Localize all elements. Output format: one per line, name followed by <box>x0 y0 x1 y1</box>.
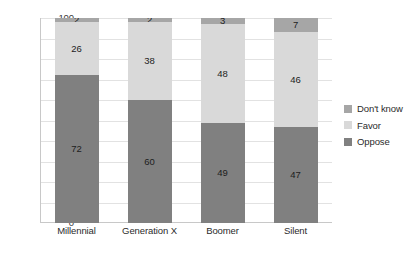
bar-segment-oppose[interactable]: 47 <box>274 127 318 223</box>
bar-value-label: 47 <box>290 170 300 180</box>
bar-segment-favor[interactable]: 46 <box>274 32 318 126</box>
category-label: Silent <box>259 226 332 236</box>
bar-column-millennial[interactable]: 22672 <box>55 18 99 223</box>
legend-item-favor[interactable]: Favor <box>344 121 403 131</box>
legend-swatch-icon <box>344 138 352 146</box>
legend-swatch-icon <box>344 105 352 113</box>
bar-value-label: 26 <box>71 44 81 54</box>
bar-value-label: 7 <box>293 20 298 30</box>
bar-segment-oppose[interactable]: 49 <box>201 123 245 223</box>
stacked-bar-chart: 1009080706050403020100 22672238603484974… <box>0 0 418 254</box>
y-axis-line <box>40 18 41 223</box>
bar-value-label: 60 <box>144 157 154 167</box>
legend-label: Favor <box>357 121 381 131</box>
bar-segment-don-t-know[interactable]: 7 <box>274 18 318 32</box>
bar-column-silent[interactable]: 74647 <box>274 18 318 223</box>
legend-label: Don't know <box>357 104 403 114</box>
bar-column-boomer[interactable]: 34849 <box>201 18 245 223</box>
legend-item-oppose[interactable]: Oppose <box>344 137 403 147</box>
bar-segment-favor[interactable]: 26 <box>55 22 99 75</box>
chart-legend: Don't knowFavorOppose <box>344 104 403 147</box>
legend-label: Oppose <box>357 137 390 147</box>
plot-area: 22672238603484974647 MillennialGeneratio… <box>40 18 332 223</box>
bar-segment-favor[interactable]: 38 <box>128 22 172 100</box>
category-label: Generation X <box>113 226 186 236</box>
legend-swatch-icon <box>344 121 352 129</box>
bar-value-label: 46 <box>290 75 300 85</box>
bar-segment-oppose[interactable]: 60 <box>128 100 172 223</box>
bar-value-label: 72 <box>71 144 81 154</box>
legend-item-don-t-know[interactable]: Don't know <box>344 104 403 114</box>
category-label: Millennial <box>40 226 113 236</box>
bar-segment-oppose[interactable]: 72 <box>55 75 99 223</box>
bar-segment-favor[interactable]: 48 <box>201 24 245 122</box>
bar-value-label: 38 <box>144 56 154 66</box>
category-label: Boomer <box>186 226 259 236</box>
bar-column-generation-x[interactable]: 23860 <box>128 18 172 223</box>
bar-value-label: 48 <box>217 69 227 79</box>
bar-value-label: 49 <box>217 168 227 178</box>
